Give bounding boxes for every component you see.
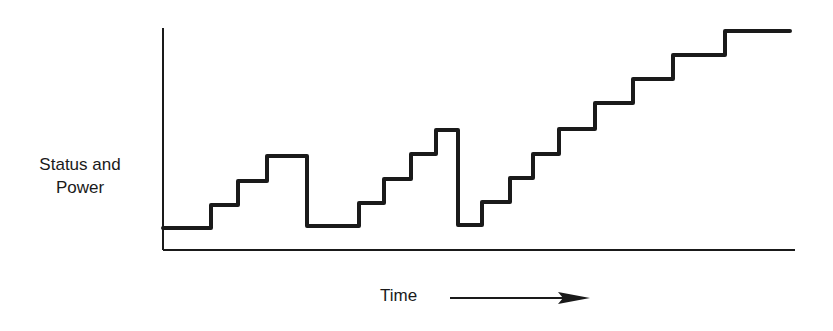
time-arrow-icon bbox=[450, 292, 590, 304]
y-axis-label: Status and Power bbox=[0, 153, 160, 199]
y-axis-label-line2: Power bbox=[0, 176, 160, 199]
status-power-step-line bbox=[163, 31, 790, 228]
y-axis-label-line1: Status and bbox=[0, 153, 160, 176]
x-axis-label: Time bbox=[380, 286, 417, 306]
